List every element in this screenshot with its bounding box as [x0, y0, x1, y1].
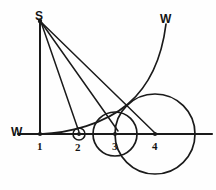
point-dot-2 [77, 132, 81, 136]
ray-s-to-point-4 [41, 22, 155, 133]
label-point-3: 3 [112, 141, 118, 152]
geometry-canvas [0, 0, 216, 190]
rising-curve [40, 24, 166, 134]
geometry-figure: S W W 1 2 3 4 [0, 0, 216, 190]
point-dot-4 [153, 132, 157, 136]
label-apex-s: S [35, 10, 43, 22]
point-dot-1 [38, 132, 42, 136]
point-dot-3 [113, 132, 117, 136]
label-point-2: 2 [75, 142, 81, 153]
label-baseline-w: W [11, 126, 22, 138]
label-point-4: 4 [152, 141, 158, 152]
label-point-1: 1 [37, 141, 43, 152]
label-curve-w: W [160, 13, 171, 25]
ray-s-to-point-2 [41, 22, 79, 132]
